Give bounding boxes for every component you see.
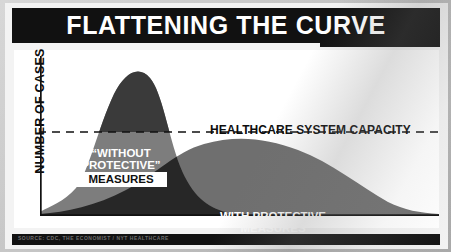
without-measures-label-measures: MEASURES xyxy=(75,172,167,187)
chart-card: NUMBER OF CASES xyxy=(14,50,439,228)
title-banner: FLATTENING THE CURVE xyxy=(12,8,440,43)
curve-without-upper-cap xyxy=(40,56,439,132)
infographic-root: FLATTENING THE CURVE NUMBER OF CASES xyxy=(0,0,451,252)
with-measures-label: WITH PROTECTIVE MEASURES xyxy=(210,210,336,235)
with-measures-line2: MEASURES xyxy=(210,222,336,234)
page-title: FLATTENING THE CURVE xyxy=(12,8,440,43)
chart-plot-area xyxy=(40,56,439,228)
source-bar: SOURCE: CDC, THE ECONOMIST / NYT HEALTHC… xyxy=(12,234,440,245)
source-text: SOURCE: CDC, THE ECONOMIST / NYT HEALTHC… xyxy=(18,235,169,241)
without-measures-line2: PROTECTIVE” xyxy=(75,159,167,171)
healthcare-capacity-label: HEALTHCARE SYSTEM CAPACITY xyxy=(210,123,411,137)
without-measures-label: “WITHOUT PROTECTIVE” xyxy=(75,147,167,172)
curves-svg xyxy=(40,56,439,228)
with-measures-line1: WITH PROTECTIVE xyxy=(210,210,336,222)
without-measures-line1: “WITHOUT xyxy=(75,147,167,159)
